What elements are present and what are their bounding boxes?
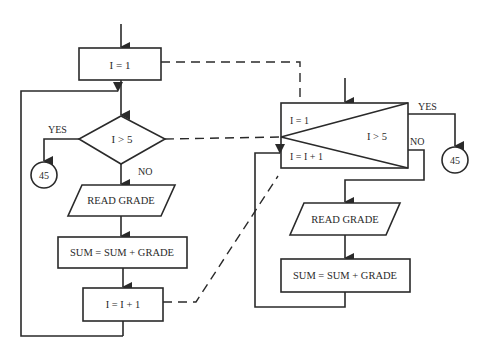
connector-label: 45: [39, 170, 49, 181]
yes-label: YES: [48, 124, 67, 135]
loop-condition-label: I > 5: [367, 131, 387, 142]
dashed-condition-link: [165, 137, 281, 139]
read-label: READ GRADE: [311, 214, 378, 225]
loop-symbol-flowchart: I = 1 I > 5 I = I + 1 YES 45 NO READ GRA…: [255, 78, 468, 307]
read-grade-io: READ GRADE: [290, 203, 400, 235]
yes-branch-line: [44, 139, 79, 161]
increment-box: I = I + 1: [83, 288, 163, 321]
sum-box: SUM = SUM + GRADE: [58, 237, 187, 268]
init-box: I = 1: [79, 48, 161, 80]
yes-label: YES: [418, 101, 437, 112]
flowchart-diagram: I = 1 I > 5 YES 45 NO READ GRADE SUM: [0, 0, 485, 356]
standard-flowchart: I = 1 I > 5 YES 45 NO READ GRADE SUM: [21, 24, 187, 336]
read-grade-io: READ GRADE: [68, 185, 175, 216]
connector-label: 45: [450, 155, 460, 166]
dashed-init-link: [161, 62, 300, 103]
condition-label: I > 5: [112, 133, 133, 145]
increment-label: I = I + 1: [106, 299, 141, 310]
no-label: NO: [410, 136, 424, 147]
read-label: READ GRADE: [87, 195, 154, 206]
sum-label: SUM = SUM + GRADE: [293, 270, 397, 281]
sum-box: SUM = SUM + GRADE: [281, 259, 410, 292]
init-label: I = 1: [110, 59, 131, 71]
sum-label: SUM = SUM + GRADE: [70, 247, 174, 258]
loop-increment-label: I = I + 1: [290, 151, 323, 162]
loop-box: I = 1 I > 5 I = I + 1: [281, 103, 408, 168]
connector-circle: 45: [442, 147, 468, 173]
connector-circle: 45: [31, 162, 57, 188]
loop-init-label: I = 1: [290, 115, 309, 126]
no-label: NO: [138, 166, 152, 177]
decision-diamond: I > 5: [79, 116, 165, 164]
